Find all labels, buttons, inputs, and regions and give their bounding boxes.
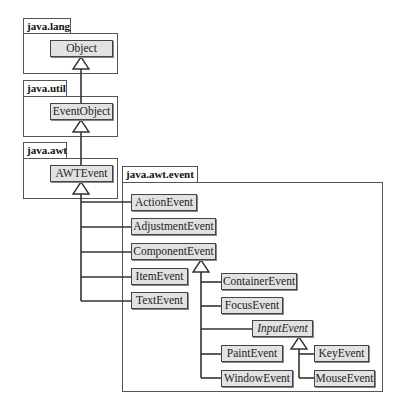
inheritance-arrow-eventobject [73,120,89,132]
class-container-event: ContainerEvent [221,273,297,290]
inheritance-arrow-object [73,57,89,69]
class-mouse-event: MouseEvent [314,370,375,387]
class-text-event: TextEvent [131,292,188,309]
inheritance-arrow-inputevent [291,337,307,349]
class-component-event: ComponentEvent [131,243,216,260]
class-adjustment-event: AdjustmentEvent [131,218,216,235]
inheritance-arrow-awtevent [73,182,89,194]
class-action-event: ActionEvent [131,194,197,211]
class-event-object: EventObject [50,103,113,120]
class-paint-event: PaintEvent [221,345,283,362]
class-item-event: ItemEvent [131,268,188,285]
class-awt-event: AWTEvent [50,165,113,182]
class-object: Object [50,40,113,57]
inheritance-arrow-componentevent [193,260,209,272]
class-focus-event: FocusEvent [221,297,283,314]
class-key-event: KeyEvent [314,345,369,362]
class-window-event: WindowEvent [221,370,293,387]
class-input-event: InputEvent [252,320,313,337]
